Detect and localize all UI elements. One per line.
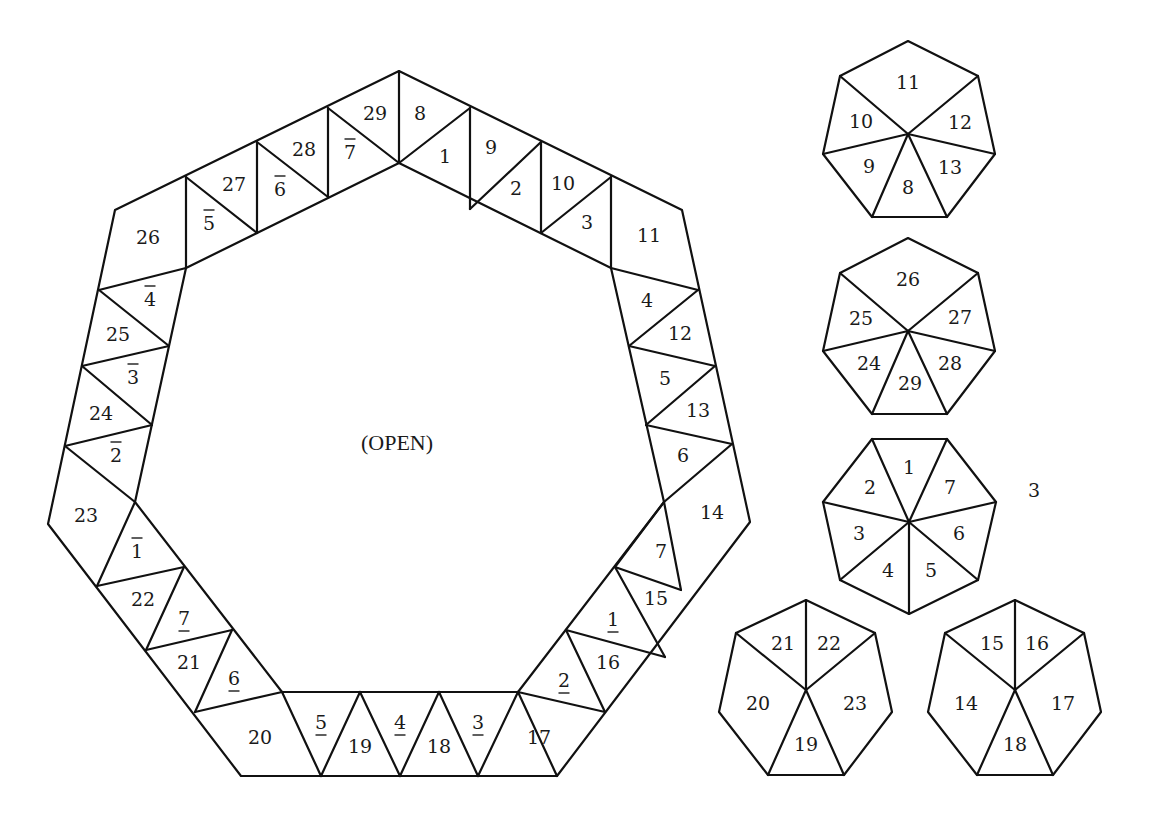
ring-fold-edge [65, 425, 152, 446]
ring-face-label: 3 [127, 366, 139, 388]
heptagon-face-label: 9 [863, 155, 875, 177]
ring-fold-edge [629, 346, 715, 366]
ring-fold-edge [664, 444, 732, 502]
ring-fold-edge [195, 692, 282, 712]
ring-face-label: 11 [637, 224, 661, 246]
ring-fold-edge [615, 567, 665, 657]
heptagon-spoke [840, 522, 909, 580]
heptagon-face-label: 26 [896, 268, 920, 290]
ring-fold-edge [439, 692, 478, 776]
ring-face-label: 9 [485, 136, 497, 158]
heptagon-face-label: 1 [903, 456, 915, 478]
ring-fold-edge [282, 692, 321, 776]
ring-face-label: 7 [178, 607, 190, 629]
heptagon-face-label: 23 [843, 692, 867, 714]
ring-face-label: 26 [136, 226, 160, 248]
ring-face-label: 8 [414, 102, 426, 124]
heptagon-face-label: 29 [898, 372, 922, 394]
ring-fold-edge [97, 567, 184, 586]
heptagon-spoke [823, 502, 909, 522]
heptagon-face-label: 10 [849, 110, 873, 132]
ring-fold-edge [470, 142, 541, 209]
heptagon-face-label: 22 [817, 632, 841, 654]
ring-face-label: 14 [700, 501, 724, 523]
heptagon-face-label: 14 [954, 692, 978, 714]
ring-face-label: 17 [527, 726, 551, 748]
ring-fold-edge [646, 425, 732, 444]
heptagon-face-label: 19 [794, 733, 818, 755]
ring-face-label: 21 [177, 651, 201, 673]
heptagon-face-label: 13 [938, 156, 962, 178]
heptagon-face-label: 25 [849, 307, 873, 329]
heptagon-spoke [872, 439, 909, 522]
ring-face-label: 7 [655, 540, 667, 562]
ring-face-label: 6 [228, 667, 240, 689]
ring-face-label: 3 [581, 211, 593, 233]
heptagon-face-label: 27 [948, 306, 972, 328]
heptagon-face-label: 18 [1003, 733, 1027, 755]
ring-face-label: 6 [677, 444, 689, 466]
heptagon-face-label: 7 [944, 476, 956, 498]
ring-face-label: 4 [394, 711, 406, 733]
heptagon-face-label: 16 [1025, 632, 1049, 654]
heptagon-26: 262728292425 [823, 238, 995, 414]
heptagon-11: 1112138910 [823, 41, 995, 217]
ring-fold-edge [82, 346, 169, 366]
ring-face-label: 6 [274, 178, 286, 200]
ring-face-label: 1 [131, 540, 143, 562]
heptagon-spoke [909, 502, 996, 522]
ring-face-label: 2 [110, 444, 122, 466]
heptagon-face-label: 17 [1051, 692, 1075, 714]
ring-face-label: 4 [144, 288, 156, 310]
ring-fold-edge [97, 502, 135, 586]
ring-face-label: 1 [607, 608, 619, 630]
closed-heptagons: 1112138910262728292425176543221222023191… [719, 41, 1101, 775]
ring-face-label: 3 [472, 711, 484, 733]
ring-face-label: 16 [596, 651, 620, 673]
ring-face-label: 28 [292, 138, 316, 160]
heptagon-spoke [823, 134, 908, 154]
heptagon-spoke [823, 331, 908, 351]
ring-outer-boundary [48, 71, 750, 776]
ring-fold-edge [611, 268, 698, 290]
ring-face-label: 7 [344, 141, 356, 163]
heptagon-spoke [908, 331, 995, 351]
ring-face-label: 19 [348, 735, 372, 757]
ring-fold-edge [518, 692, 605, 712]
heptagon-15: 1516141718 [928, 600, 1101, 775]
ring-face-label: 29 [363, 102, 387, 124]
heptagon-spoke [909, 439, 947, 522]
ring-face-label: 25 [106, 323, 130, 345]
ring-fold-edge [399, 108, 470, 163]
heptagon-20: 2122202319 [719, 600, 892, 775]
heptagon-face-label: 8 [902, 176, 914, 198]
side-count-label: 3 [1028, 479, 1040, 501]
open-face-label: (OPEN) [361, 430, 433, 455]
heptagon-face-label: 3 [853, 522, 865, 544]
heptagon-face-label: 21 [771, 632, 795, 654]
ring-face-label: 15 [644, 587, 668, 609]
heptagon-face-label: 20 [746, 692, 770, 714]
heptagon-net-diagram: 8192103114125136147151162173184195206217… [0, 0, 1153, 826]
ring-fold-edge [321, 692, 360, 776]
heptagon-spoke [908, 134, 995, 154]
heptagon-face-label: 4 [882, 559, 894, 581]
diagram-canvas: 8192103114125136147151162173184195206217… [0, 0, 1153, 826]
ring-fold-edge [146, 630, 232, 650]
heptagon-face-label: 28 [938, 352, 962, 374]
ring-face-label: 12 [668, 322, 692, 344]
ring-face-label: 1 [439, 145, 451, 167]
heptagon-face-label: 15 [980, 632, 1004, 654]
heptagon-1: 1765432 [823, 439, 996, 614]
heptagon-face-label: 11 [896, 71, 920, 93]
ring-face-label: 5 [315, 711, 327, 733]
ring-face-label: 22 [131, 588, 155, 610]
heptagon-face-label: 2 [864, 476, 876, 498]
heptagon-face-label: 6 [953, 522, 965, 544]
ring-fold-edge [400, 692, 439, 776]
ring-face-label: 5 [203, 212, 215, 234]
ring-face-label: 27 [222, 173, 246, 195]
heptagon-face-label: 12 [948, 111, 972, 133]
ring-face-label: 18 [427, 735, 451, 757]
heptagon-face-label: 24 [857, 352, 881, 374]
